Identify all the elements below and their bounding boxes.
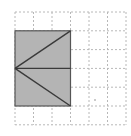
small-dot	[94, 99, 96, 101]
geometry-diagram	[0, 0, 131, 136]
